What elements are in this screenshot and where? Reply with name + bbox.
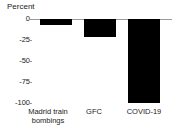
bar-gfc <box>84 19 116 37</box>
x-tick-label-covid-19: COVID-19 <box>114 107 174 116</box>
y-tick-label-0: 0 <box>0 15 30 23</box>
bar-madrid-train-bombings <box>40 19 72 25</box>
y-tick-label-4: -100 <box>0 99 30 107</box>
bar-covid-19 <box>128 19 160 103</box>
plot-area <box>32 19 172 103</box>
y-tick-label-1: -25 <box>0 36 30 44</box>
y-tick-label-3: -75 <box>0 78 30 86</box>
y-tick-mark-4 <box>29 103 32 104</box>
bar-chart: Percent 0 -25 -50 -75 -100 Madrid train … <box>0 0 185 139</box>
x-tick-label-madrid-train-bombings: Madrid train bombings <box>20 107 76 125</box>
x-tick-label-gfc: GFC <box>72 107 116 116</box>
y-tick-label-2: -50 <box>0 57 30 65</box>
